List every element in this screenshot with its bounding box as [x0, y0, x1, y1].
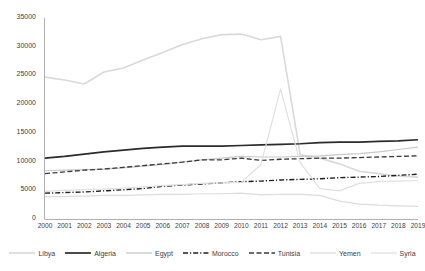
legend-item-tunisia[interactable]: Tunisia	[249, 248, 300, 258]
plot-area	[0, 0, 425, 271]
legend-label: Morocco	[212, 250, 239, 257]
legend-label: Tunisia	[278, 250, 300, 257]
legend-item-egypt[interactable]: Egypt	[126, 248, 173, 258]
x-tick-label: 2000	[38, 222, 53, 229]
legend-label: Libya	[38, 250, 55, 257]
chart-legend: LibyaAlgeriaEgyptMoroccoTunisiaYemenSyri…	[0, 244, 425, 262]
legend-item-libya[interactable]: Libya	[9, 248, 55, 258]
legend-item-algeria[interactable]: Algeria	[65, 248, 116, 258]
x-tick-label: 2005	[136, 222, 151, 229]
legend-item-syria[interactable]: Syria	[371, 248, 416, 258]
series-line-syria	[45, 89, 418, 191]
series-line-yemen	[45, 193, 418, 206]
x-tick-label: 2004	[116, 222, 131, 229]
legend-item-morocco[interactable]: Morocco	[183, 248, 239, 258]
legend-swatch-algeria-icon	[65, 248, 91, 258]
series-line-algeria	[45, 140, 418, 158]
x-tick-label: 2002	[77, 222, 92, 229]
legend-label: Algeria	[94, 250, 116, 257]
series-line-libya	[45, 34, 418, 177]
legend-item-yemen[interactable]: Yemen	[310, 248, 361, 258]
x-tick-label: 2009	[214, 222, 229, 229]
legend-swatch-tunisia-icon	[249, 248, 275, 258]
legend-swatch-syria-icon	[371, 248, 397, 258]
x-tick-label: 2013	[293, 222, 308, 229]
x-tick-label: 2018	[391, 222, 406, 229]
x-tick-label: 2017	[371, 222, 386, 229]
legend-swatch-morocco-icon	[183, 248, 209, 258]
legend-swatch-libya-icon	[9, 248, 35, 258]
x-tick-label: 2015	[332, 222, 347, 229]
legend-swatch-yemen-icon	[310, 248, 336, 258]
line-chart: 05000100001500020000250003000035000 2000…	[0, 0, 425, 271]
x-tick-label: 2012	[273, 222, 288, 229]
x-tick-label: 2016	[352, 222, 367, 229]
legend-label: Syria	[400, 250, 416, 257]
x-tick-label: 2011	[254, 222, 268, 229]
x-tick-label: 2006	[155, 222, 170, 229]
series-line-egypt	[45, 147, 418, 171]
x-tick-label: 2014	[312, 222, 327, 229]
x-tick-label: 2007	[175, 222, 190, 229]
x-tick-label: 2003	[97, 222, 112, 229]
legend-swatch-egypt-icon	[126, 248, 152, 258]
x-tick-label: 2008	[195, 222, 210, 229]
x-tick-label: 2001	[57, 222, 72, 229]
legend-label: Egypt	[155, 250, 173, 257]
x-tick-label: 2019	[411, 222, 425, 229]
x-tick-label: 2010	[234, 222, 249, 229]
legend-label: Yemen	[339, 250, 361, 257]
series-lines	[45, 34, 418, 206]
